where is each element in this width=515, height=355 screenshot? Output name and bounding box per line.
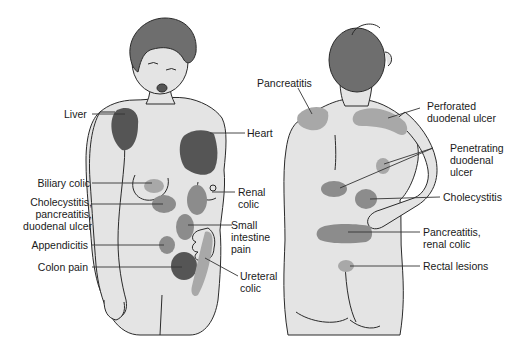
label-perforated-ulcer: Perforated duodenal ulcer <box>427 100 496 124</box>
region-colon <box>171 252 197 280</box>
label-rectal-lesions: Rectal lesions <box>423 260 488 272</box>
label-cholecystitis-back: Cholecystitis <box>443 191 502 203</box>
label-small-intestine: Small intestine pain <box>231 219 270 255</box>
label-liver: Liver <box>64 108 87 120</box>
region-pancreatitis-renal <box>317 224 372 243</box>
region-small-intestine <box>176 214 194 240</box>
label-renal-colic: Renal colic <box>238 186 265 210</box>
label-pancreatitis: Pancreatitis <box>257 77 312 89</box>
region-penetrating-ulcer-2 <box>321 181 347 197</box>
referred-pain-diagram: Liver Heart Biliary colic Cholecystitis,… <box>0 0 515 355</box>
region-heart <box>180 130 218 174</box>
region-renal <box>187 185 207 215</box>
label-ureteral-colic: Ureteral colic <box>240 270 277 294</box>
label-pancreatitis-renal: Pancreatitis, renal colic <box>423 226 481 250</box>
label-cholecystitis-front: Cholecystitis, pancreatitis, duodenal ul… <box>8 196 92 232</box>
front-figure <box>86 18 226 335</box>
label-biliary-colic: Biliary colic <box>22 177 90 189</box>
label-colon-pain: Colon pain <box>22 261 88 273</box>
label-appendicitis: Appendicitis <box>18 239 88 251</box>
region-biliary <box>144 179 164 193</box>
label-heart: Heart <box>247 127 273 139</box>
label-penetrating-ulcer: Penetrating duodenal ulcer <box>450 142 504 178</box>
